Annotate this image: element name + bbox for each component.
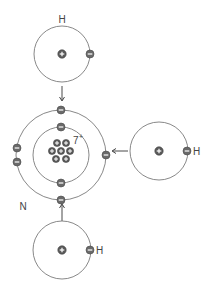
electron-icon — [86, 50, 94, 58]
hydrogen-label-bottom: H — [96, 245, 103, 256]
hydrogen-atom-top: H — [34, 14, 94, 82]
electron-icon — [102, 151, 110, 159]
nitrogen-nucleus — [48, 139, 73, 162]
electron-icon — [13, 158, 21, 166]
arrow-left-icon — [112, 149, 128, 154]
electron-icon — [13, 144, 21, 152]
nucleus-charge-sign: + — [79, 133, 83, 140]
proton-icon — [58, 246, 66, 254]
nitrogen-atom: 7 + N — [13, 106, 110, 212]
electron-icon — [86, 246, 94, 254]
hydrogen-label-right: H — [193, 146, 200, 157]
electron-icon — [183, 147, 191, 155]
arrow-down-icon — [60, 86, 65, 101]
hydrogen-atom-bottom: H — [33, 221, 103, 279]
proton-icon — [58, 50, 66, 58]
arrow-up-icon — [60, 204, 65, 221]
hydrogen-atom-right: H — [130, 122, 200, 180]
electron-icon — [57, 179, 65, 187]
hydrogen-label-top: H — [58, 14, 65, 25]
proton-icon — [155, 147, 163, 155]
electron-icon — [57, 106, 65, 114]
nitrogen-label: N — [19, 201, 26, 212]
electron-icon — [57, 196, 65, 204]
electron-icon — [57, 123, 65, 131]
ammonia-bonding-diagram: H 7 + N — [0, 0, 209, 294]
